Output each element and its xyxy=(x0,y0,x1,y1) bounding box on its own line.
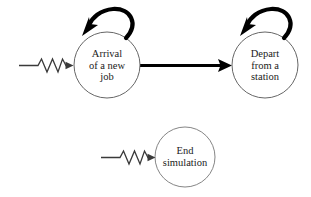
random-delay-arrow-to-end-simulation xyxy=(101,151,156,164)
end-simulation-circle xyxy=(155,127,215,187)
depart-from-a-station-circle xyxy=(232,32,298,98)
random-delay-arrow-to-arrival xyxy=(19,59,74,72)
diagram-graphics xyxy=(0,0,311,197)
random-delay-arrow-to-end-zigzag xyxy=(101,151,152,164)
random-delay-arrow-to-arrival-arrowhead xyxy=(66,62,74,69)
arrival-to-depart-arrow xyxy=(140,59,232,72)
random-delay-arrow-to-end-arrowhead xyxy=(148,154,156,161)
arrival-of-a-new-job-circle xyxy=(74,32,140,98)
diagram-canvas: Arrival of a new job Depart from a stati… xyxy=(0,0,311,197)
random-delay-arrow-to-arrival-zigzag xyxy=(19,59,70,72)
